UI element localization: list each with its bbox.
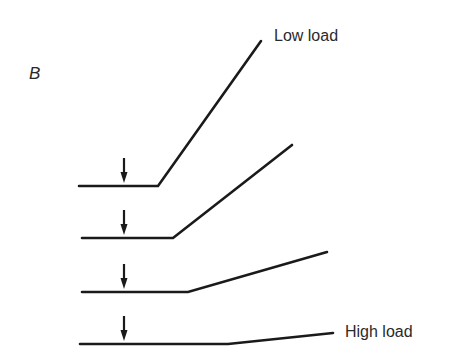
low-load-label: Low load [274,27,338,44]
trace-medium-high-load [82,252,327,292]
down-arrow-icon [121,172,128,183]
trace-group [79,41,333,344]
trace-medium-low-load [82,145,292,238]
down-arrow-icon [121,278,128,289]
trace-low-load [79,41,261,186]
down-arrow-icon [121,224,128,235]
down-arrow-icon [121,330,128,341]
panel-label: B [29,64,40,83]
trace-line [82,252,327,292]
high-load-label: High load [345,323,413,340]
trace-line [79,41,261,186]
diagram-canvas: B Low load High load [0,0,459,363]
trace-line [82,145,292,238]
trace-line [80,333,333,344]
trace-high-load [80,316,333,344]
